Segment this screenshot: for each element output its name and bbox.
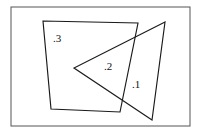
- region-label-3: .3: [53, 32, 62, 44]
- triangle-shape: [74, 22, 165, 120]
- region-label-2: .2: [104, 60, 112, 72]
- geometry-diagram: .3 .2 .1: [0, 0, 201, 138]
- figure-canvas: .3 .2 .1: [0, 0, 201, 138]
- region-label-1: .1: [132, 78, 140, 90]
- outer-frame-rectangle: [11, 7, 190, 126]
